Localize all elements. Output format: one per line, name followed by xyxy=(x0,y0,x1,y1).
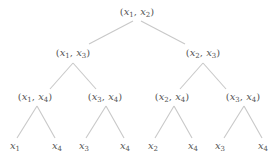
tree-node: (x2, x4) xyxy=(155,92,189,104)
tree-edge-n4-l2 xyxy=(86,106,106,138)
tree-edge-n6-l7 xyxy=(244,106,262,138)
tree-leaf: x4 xyxy=(258,141,268,153)
tree-edge-n1-n4 xyxy=(73,63,96,89)
tree-leaf: x4 xyxy=(188,141,198,153)
tree-edge-n5-l4 xyxy=(155,106,174,138)
tree-node: (x1, x3) xyxy=(56,48,90,60)
tree-edge-n1-n3 xyxy=(50,63,73,89)
tree-leaf: x3 xyxy=(215,141,225,153)
tree-edges xyxy=(0,0,276,157)
tree-edge-n2-n6 xyxy=(203,63,226,89)
tree-node: (x1, x2) xyxy=(120,7,154,19)
tree-edge-n2-n5 xyxy=(180,63,203,89)
tree-diagram: (x1, x2)(x1, x3)(x2, x3)(x1, x4)(x3, x4)… xyxy=(0,0,276,157)
tree-leaf: x4 xyxy=(52,141,62,153)
tree-leaf: x3 xyxy=(79,141,89,153)
tree-edge-n6-l6 xyxy=(224,106,244,138)
tree-leaf: x2 xyxy=(148,141,158,153)
tree-edge-n4-l3 xyxy=(106,106,124,138)
tree-edge-n0-n1 xyxy=(89,21,133,44)
tree-node: (x3, x4) xyxy=(88,92,122,104)
tree-leaf: x4 xyxy=(120,141,130,153)
tree-node: (x1, x4) xyxy=(18,92,52,104)
tree-node: (x2, x3) xyxy=(186,48,220,60)
tree-edge-n3-l1 xyxy=(37,106,55,138)
tree-edge-n0-n2 xyxy=(141,21,185,44)
tree-leaf: x1 xyxy=(10,141,20,153)
tree-node: (x3, x4) xyxy=(226,92,260,104)
tree-edge-n5-l5 xyxy=(174,106,192,138)
tree-edge-n3-l0 xyxy=(17,106,37,138)
